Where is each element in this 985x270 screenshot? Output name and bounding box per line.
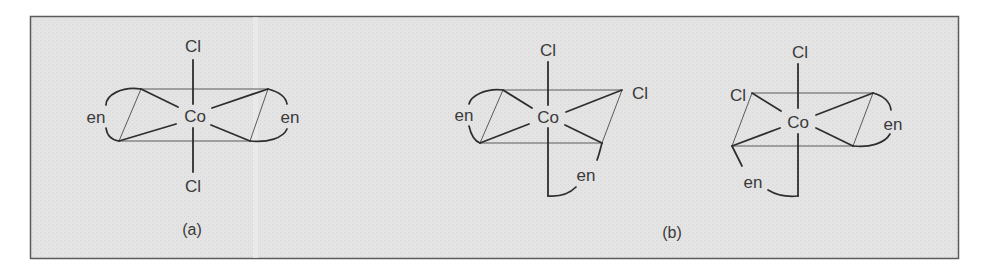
ligand-left-label: en [455,106,474,125]
ligand-bottom-label: en [577,166,596,185]
ligand-left-label: en [87,108,106,127]
ligand-left-label: Cl [730,86,746,105]
caption-a: (a) [182,221,202,238]
ligand-top-label: Cl [185,37,201,56]
ligand-top-label: Cl [792,43,808,62]
ligand-right-label: en [281,108,300,127]
ligand-bottom-label: en [744,173,763,192]
octahedral-complex-figure: Cl Co Cl en en (a) Cl [0,0,985,270]
ligand-right-label: Cl [632,84,648,103]
caption-b: (b) [662,224,682,241]
ligand-right-label: en [884,115,903,134]
metal-center-label: Co [787,113,809,132]
metal-center-label: Co [184,107,206,126]
ligand-top-label: Cl [540,41,556,60]
metal-center-label: Co [537,108,559,127]
ligand-bottom-label: Cl [185,177,201,196]
